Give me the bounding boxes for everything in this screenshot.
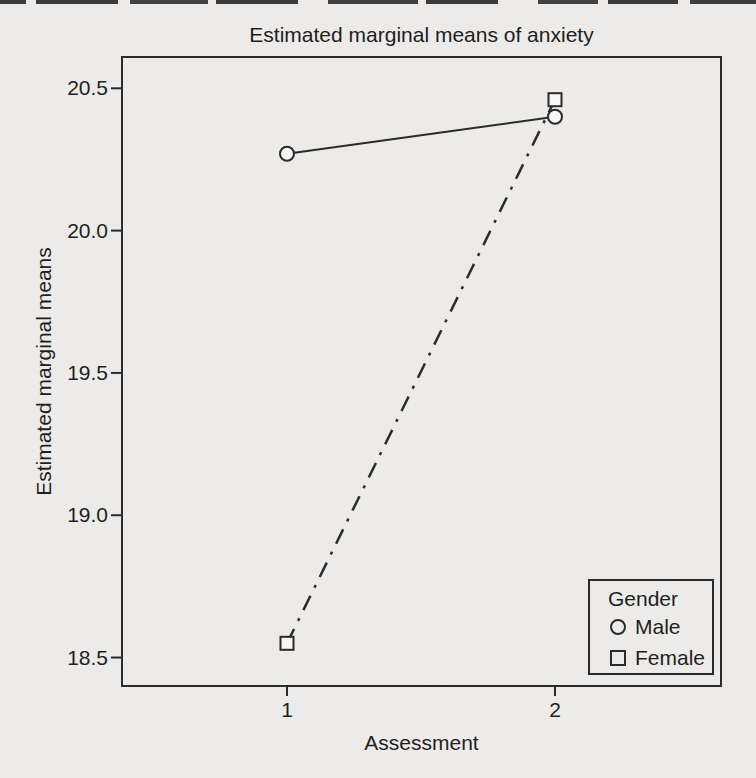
y-axis-label: Estimated marginal means <box>32 172 55 572</box>
male-data-marker <box>548 110 562 124</box>
female-data-marker <box>549 93 562 106</box>
x-tick-label: 2 <box>535 699 575 721</box>
circle-marker-icon <box>609 618 627 636</box>
x-axis-label: Assessment <box>122 731 721 754</box>
female-data-marker <box>281 637 294 650</box>
y-tick-label: 20.5 <box>36 77 108 99</box>
legend-item-male: Male <box>608 611 712 642</box>
square-marker-icon <box>609 649 627 667</box>
male-data-marker <box>280 147 294 161</box>
figure-canvas: Estimated marginal means of anxiety 20.5… <box>0 0 756 778</box>
legend-label-male: Male <box>635 616 681 638</box>
legend-item-female: Female <box>608 642 712 673</box>
legend-label-female: Female <box>635 647 705 669</box>
legend: Gender Male Female <box>588 579 714 675</box>
y-tick-label: 18.5 <box>36 647 108 669</box>
legend-title: Gender <box>608 586 712 611</box>
x-tick-label: 1 <box>267 699 307 721</box>
